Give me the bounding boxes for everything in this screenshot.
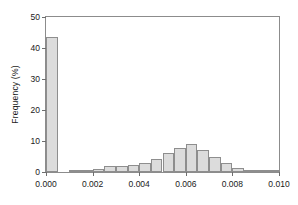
histogram-bar [139,163,151,172]
y-axis-title: Frequency (%) [10,16,24,173]
histogram-bar [116,166,128,172]
histogram-bar [93,169,105,172]
x-axis-tick-label: 0.004 [129,179,150,189]
x-axis-tick [139,172,140,176]
y-axis-tick-label: 30 [31,74,40,84]
y-axis-tick-label: 50 [31,12,40,22]
histogram-bar [151,159,163,172]
histogram-bar [128,165,140,172]
histogram-bar [244,170,256,172]
y-axis-tick [42,141,46,142]
histogram-bar [163,153,175,172]
x-axis-tick [46,172,47,176]
histogram-bar [209,157,221,173]
x-axis-tick [93,172,94,176]
x-axis-tick [186,172,187,176]
y-axis-tick-label: 20 [31,105,40,115]
x-axis-tick-label: 0.010 [268,179,289,189]
x-axis-tick-label: 0.006 [175,179,196,189]
histogram-bar [267,170,279,172]
y-axis-tick-label: 0 [35,167,40,177]
y-axis-tick-label: 40 [31,43,40,53]
y-axis-tick-label: 10 [31,136,40,146]
x-axis-tick [279,172,280,176]
y-axis-tick [42,17,46,18]
x-axis-tick-label: 0.002 [82,179,103,189]
bar-series [46,17,279,172]
histogram-bar [69,170,81,172]
histogram-bar [81,170,93,172]
histogram-bar [221,163,233,172]
histogram-bar [186,144,198,172]
plot-area: 010203040500.0000.0020.0040.0060.0080.01… [45,16,280,173]
histogram-bar [104,166,116,173]
histogram-bar [46,37,58,172]
histogram-figure: Frequency (%) 010203040500.0000.0020.004… [0,0,298,205]
x-axis-tick-label: 0.000 [35,179,56,189]
y-axis-tick [42,110,46,111]
histogram-bar [256,170,268,172]
histogram-bar [232,168,244,172]
y-axis-tick [42,48,46,49]
histogram-bar [174,148,186,172]
y-axis-tick [42,79,46,80]
histogram-bar [197,150,209,172]
x-axis-tick-label: 0.008 [222,179,243,189]
x-axis-tick [232,172,233,176]
